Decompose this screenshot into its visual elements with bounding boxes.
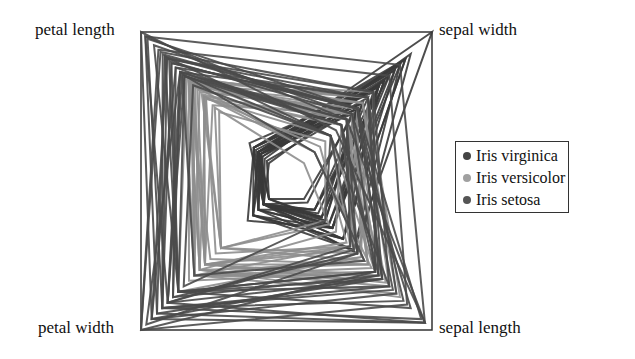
legend: Iris virginica Iris versicolor Iris seto… <box>455 141 569 213</box>
legend-label: Iris setosa <box>476 191 540 209</box>
legend-item-virginica[interactable]: Iris virginica <box>463 145 568 167</box>
legend-item-setosa[interactable]: Iris setosa <box>463 189 568 211</box>
legend-marker-icon <box>463 174 471 182</box>
axis-label-sepal-length: sepal length <box>439 318 521 338</box>
axis-label-petal-length: petal length <box>35 20 115 40</box>
legend-label: Iris versicolor <box>476 169 565 187</box>
legend-marker-icon <box>463 152 471 160</box>
legend-marker-icon <box>463 196 471 204</box>
axis-label-petal-width: petal width <box>38 318 114 338</box>
axis-label-sepal-width: sepal width <box>439 20 517 40</box>
sample-lines <box>141 32 432 330</box>
legend-label: Iris virginica <box>476 147 558 165</box>
legend-item-versicolor[interactable]: Iris versicolor <box>463 167 568 189</box>
